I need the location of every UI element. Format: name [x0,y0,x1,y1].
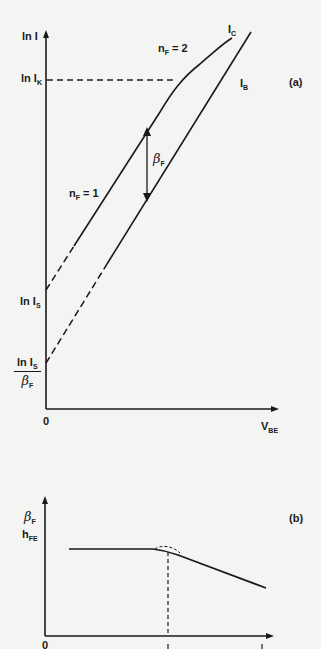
collector-curve-dashed [46,246,74,290]
diagram-canvas [0,0,321,649]
panel-b [45,500,270,649]
beta-arrow-head-down [143,193,151,202]
collector-curve-label: IC [228,24,236,37]
y-axis-label-b-beta: βF [24,510,36,525]
origin-label-a: 0 [43,416,49,427]
y-axis-label-a: ln I [22,31,38,42]
ideality-n2-label: nF = 2 [158,43,188,56]
base-intercept-label: ln IS βF [14,356,41,389]
panel-b-tag: (b) [289,512,303,524]
collector-curve [74,38,232,246]
knee-label: ln IK [21,73,42,86]
ideality-n1-label: nF = 1 [69,188,99,201]
base-curve [107,32,251,264]
collector-intercept-label: ln IS [20,296,41,309]
beta-gap-label: βF [153,152,165,167]
base-curve-dashed [46,264,107,363]
panel-a-tag: (a) [289,76,302,88]
base-curve-label: IB [240,78,248,91]
x-axis-label-a: VBE [261,421,278,434]
y-axis-label-b-hfe: hFE [22,529,38,542]
origin-label-b: 0 [42,640,48,649]
